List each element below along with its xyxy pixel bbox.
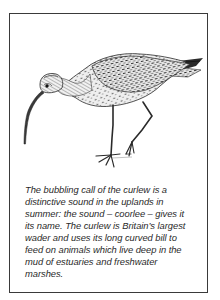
bill-icon (24, 91, 44, 144)
caption-line: feed on animals which live deep in the (25, 244, 200, 256)
head-icon (40, 73, 63, 92)
curlew-illustration (0, 0, 220, 185)
wing-icon (92, 56, 190, 92)
eye-icon (45, 84, 48, 87)
caption-text: The bubbling call of the curlew is a dis… (25, 184, 200, 280)
caption-line: The bubbling call of the curlew is a (25, 184, 200, 196)
caption-line: wader and uses its long curved bill to (25, 232, 200, 244)
ground-line (112, 157, 132, 158)
caption-line: summer: the sound – coorlee – gives it (25, 208, 200, 220)
caption-line: distinctive sound in the uplands in (25, 196, 200, 208)
caption-line: mud of estuaries and freshwater (25, 256, 200, 268)
caption-line: its name. The curlew is Britain’s larges… (25, 220, 200, 232)
caption-line: marshes. (25, 268, 200, 280)
back-leg-icon (126, 102, 152, 156)
